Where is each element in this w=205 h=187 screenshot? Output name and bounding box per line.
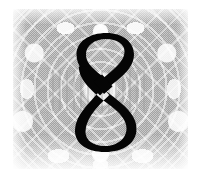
scan-fade-top-overlay — [13, 9, 188, 25]
scan-fade-right-overlay — [176, 9, 188, 169]
chapter-opener-page — [0, 0, 205, 187]
scan-fade-left-overlay — [13, 9, 27, 169]
ornamental-texture-plate — [13, 9, 188, 169]
scan-fade-bottom-overlay — [13, 135, 188, 169]
